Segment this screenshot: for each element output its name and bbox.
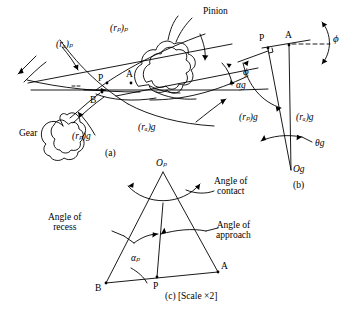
label-point-p-a: P — [98, 73, 103, 84]
panel-b-phi-arc — [322, 22, 330, 64]
angle-of-recess-line1: Angle of — [48, 212, 82, 222]
label-pitch-radius-gear: (rₚ)g — [72, 131, 91, 142]
panel-c-contact-arc — [128, 184, 200, 201]
panel-b-phi-arrowhead-bottom — [322, 59, 327, 64]
pressure-angle-arrow-top — [227, 64, 232, 69]
pinion-leader-curve-2 — [176, 18, 192, 42]
label-angle-of-contact: Angle of contact — [214, 176, 248, 197]
label-point-b-a: B — [90, 95, 96, 106]
label-center-gear: Og — [293, 164, 305, 175]
panel-b-point-p-marker — [267, 47, 270, 50]
panel-c-recess-arrowhead — [152, 232, 158, 237]
panel-c-point-p-marker — [156, 276, 159, 279]
panel-c-point-b-marker — [105, 282, 108, 285]
panel-b-theta-arrowhead-right — [297, 135, 302, 140]
ra-g-leader — [196, 99, 226, 122]
label-point-p-b: P — [259, 33, 264, 44]
gear-tooth-flank-2 — [73, 97, 104, 123]
label-pitch-radius-gear-b: (rₚ)g — [239, 112, 258, 123]
label-point-a-a: A — [126, 69, 133, 80]
angle-of-contact-line2: contact — [217, 186, 244, 196]
panel-c-approach-arc — [161, 230, 206, 234]
panel-c-drawing — [105, 172, 220, 284]
label-angle-of-recess: Angle of recess — [48, 212, 82, 233]
panel-c-right-side-oa — [163, 172, 218, 272]
label-center-pinion: Oₚ — [156, 158, 167, 169]
panel-b-left-leader — [238, 51, 268, 62]
label-pitch-radius-pinion: (rₚ)ₚ — [110, 23, 128, 34]
caption-panel-b: (b) — [293, 180, 304, 191]
point-p-marker-a — [106, 82, 109, 85]
panel-b-theta-arrowhead-left — [261, 135, 266, 141]
label-pressure-angle-b: ϕ — [333, 32, 339, 45]
label-alpha-gear: αg — [236, 80, 246, 91]
gear-rotation-arrowhead-1 — [18, 68, 24, 74]
panel-c-left-side-ob — [106, 172, 163, 283]
angle-of-contact-line1: Angle of — [214, 176, 248, 186]
point-a-marker-a — [130, 82, 133, 85]
label-addendum-radius-gear: (rₐ)g — [138, 122, 156, 133]
panel-b-theta-arc — [261, 136, 302, 141]
panel-b-phi-arrowhead-top — [322, 22, 327, 27]
pinion-rotation-arrowhead — [202, 55, 208, 60]
caption-panel-a: (a) — [105, 148, 116, 159]
point-b-marker-a — [101, 91, 104, 94]
label-theta-gear: θg — [315, 138, 324, 149]
panel-b-theta-leader — [302, 137, 312, 142]
panel-c-recess-leader — [124, 236, 134, 243]
angle-of-approach-line2: approach — [216, 230, 251, 240]
angle-of-approach-line1: Angle of — [217, 220, 251, 230]
panel-b-pitch-radius-line — [268, 49, 291, 170]
panel-b-right-angle-mark — [269, 48, 273, 53]
label-pinion: Pinion — [203, 6, 228, 17]
pinion-leader-curve-1 — [168, 16, 178, 40]
label-angle-of-approach: Angle of approach — [216, 220, 251, 241]
panel-c-recess-leader-2 — [112, 231, 124, 236]
label-point-a-c: A — [221, 261, 228, 272]
gear-contact-figure: Pinion Gear (rₚ)ₚ (rₐ)ₚ (rₚ)g (rₐ)g ϕ P … — [0, 0, 358, 309]
panel-b-addendum-radius-line — [289, 45, 291, 170]
contact-path-curve — [96, 94, 156, 100]
panel-c-vertical-op-p — [157, 203, 163, 277]
angle-of-recess-line2: recess — [53, 222, 76, 232]
label-point-p-c: P — [153, 281, 158, 292]
label-pressure-angle-a: ϕ — [243, 65, 249, 78]
panel-c-base-ba — [106, 272, 218, 283]
label-point-a-b: A — [285, 30, 292, 41]
panel-b-point-a-marker — [288, 44, 291, 47]
panel-c-point-a-marker — [217, 271, 220, 274]
figure-vector-drawing — [0, 0, 358, 309]
label-alpha-pinion: αₚ — [131, 253, 140, 264]
panel-a-drawing — [18, 16, 268, 160]
label-addendum-radius-pinion: (rₐ)ₚ — [56, 39, 73, 50]
caption-panel-c: (c) [Scale ×2] — [165, 291, 217, 302]
label-gear: Gear — [19, 128, 37, 139]
label-point-b-c: B — [95, 283, 101, 294]
label-addendum-radius-gear-b: (rₐ)g — [296, 112, 314, 123]
